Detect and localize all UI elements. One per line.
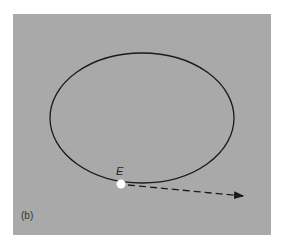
orbit-ellipse bbox=[50, 53, 234, 183]
point-e-marker bbox=[117, 180, 126, 189]
panel-label: (b) bbox=[21, 210, 33, 221]
tangent-velocity-arrow bbox=[128, 185, 243, 196]
point-e-label: E bbox=[116, 165, 123, 177]
orbit-diagram bbox=[0, 0, 284, 252]
